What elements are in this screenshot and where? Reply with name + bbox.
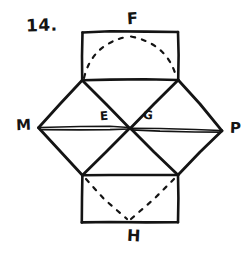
vertex-label-m: M [16,118,31,134]
right-rhombus-lower-left-edge [130,128,178,175]
vertex-label-f: F [127,11,139,28]
right-rhombus [130,80,222,175]
left-rhombus-upper-left-edge [39,80,83,128]
vertex-label-p: P [230,121,242,136]
geometry-figure: 14. F H M P E G [0,0,251,257]
diagonal-m-to-center-lower [40,129,129,130]
vertex-label-g: G [143,109,154,122]
figure-drawing [0,0,251,257]
right-rhombus-upper-right-edge [178,80,222,131]
vertex-label-h: H [127,228,141,245]
top-rect-right-edge [178,32,179,80]
left-rhombus-lower-left-edge [39,128,83,175]
top-dashed-fold-lines [84,37,177,79]
top-rect-bottom-edge [82,79,178,80]
bottom-rect-left-edge [82,175,83,222]
diagonal-m-to-center-upper [40,126,129,127]
right-rhombus-upper-left-edge [130,80,178,128]
dashed-fold-h-to-right [131,179,174,219]
bottom-dashed-fold-lines [86,179,174,219]
dashed-fold-f-to-right [131,37,177,79]
top-rect-top-edge [83,31,179,32]
dashed-fold-left-to-f [84,37,128,79]
vertex-label-e: E [100,110,109,123]
top-rectangle [82,31,179,80]
bottom-rectangle [82,175,179,222]
dashed-fold-left-to-h [86,179,127,219]
problem-number-label: 14. [26,16,58,34]
top-rect-left-edge [82,33,83,81]
left-rhombus-lower-right-edge [82,128,129,175]
right-rhombus-lower-right-edge [178,131,222,175]
